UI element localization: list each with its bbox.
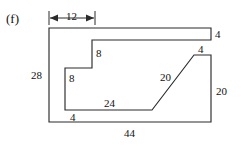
dimension-label-outer-bottom: 44 — [124, 128, 135, 139]
dimension-label-inner-bottom-left: 4 — [70, 112, 76, 123]
dimension-label-top-12: 12 — [66, 11, 77, 22]
part-label: (f) — [6, 12, 19, 25]
dimension-label-right-height: 20 — [216, 86, 227, 97]
dimension-label-inner-bottom: 24 — [104, 98, 115, 109]
dimension-label-left-height: 28 — [31, 70, 42, 81]
dimension-label-ramp-top: 4 — [198, 44, 204, 55]
arrowhead-right-icon — [86, 15, 94, 22]
dimension-label-step-vertical-upper: 8 — [96, 48, 102, 59]
dimension-label-top-right-step: 4 — [215, 29, 221, 40]
dimension-label-step-vertical-lower: 8 — [69, 73, 75, 84]
arrowhead-left-icon — [50, 15, 58, 22]
geometry-figure-container: (f) 12 28 4 8 8 4 20 20 24 4 44 — [0, 0, 241, 146]
dimension-label-diagonal: 20 — [160, 72, 171, 83]
